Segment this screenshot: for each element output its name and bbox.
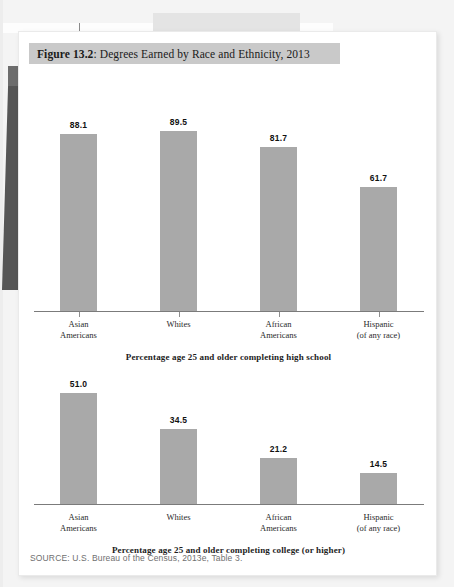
chart-high-school: 88.1 89.5 81.7 61.7 Asian — [19, 80, 438, 362]
bar-value-label: 21.2 — [270, 444, 287, 454]
source-note: SOURCE: U.S. Bureau of the Census, 2013e… — [30, 553, 242, 563]
x-axis-label-line1: Hispanic — [324, 512, 434, 523]
x-axis-label-line1: Hispanic — [324, 319, 434, 330]
x-axis-label-line1: African — [224, 319, 334, 330]
x-axis-label-line2: Americans — [224, 330, 334, 341]
x-axis-label-line1: Asian — [24, 319, 134, 330]
bar-rect[interactable] — [260, 147, 297, 312]
x-axis-label-line1: Asian — [24, 512, 134, 523]
x-axis-label: African Americans — [224, 512, 334, 533]
bar-column[interactable]: 61.7 — [334, 80, 424, 312]
bar-value-label: 81.7 — [270, 133, 287, 143]
figure-number: Figure 13.2 — [37, 48, 93, 60]
x-axis-label-line1: Whites — [124, 319, 234, 330]
x-axis-label: African Americans — [224, 319, 334, 340]
page-left-edge — [0, 0, 3, 587]
bar-value-label: 14.5 — [370, 459, 387, 469]
x-axis-labels: Asian Americans Whites African Americans… — [34, 505, 424, 535]
x-axis-label: Whites — [124, 512, 234, 523]
bar-value-label: 88.1 — [70, 120, 87, 130]
figure-title-text: : Degrees Earned by Race and Ethnicity, … — [93, 48, 309, 60]
bar-column[interactable]: 81.7 — [234, 80, 324, 312]
x-axis-label-line2: Americans — [224, 523, 334, 534]
x-axis-label-line1: Whites — [124, 512, 234, 523]
x-axis-label-line2: (of any race) — [324, 523, 434, 534]
bar-value-label: 51.0 — [70, 379, 87, 389]
x-axis-label-line2: (of any race) — [324, 330, 434, 341]
plot-area-college: 51.0 34.5 21.2 14.5 — [34, 353, 424, 505]
x-axis-label-line1: African — [224, 512, 334, 523]
chart-college: 51.0 34.5 21.2 14.5 Asian Americans — [19, 353, 438, 555]
x-axis-label: Asian Americans — [24, 319, 134, 340]
bar-rect[interactable] — [360, 187, 397, 312]
figure-title: Figure 13.2: Degrees Earned by Race and … — [29, 43, 340, 64]
bar-rect[interactable] — [60, 393, 97, 505]
plot-area-high-school: 88.1 89.5 81.7 61.7 — [34, 80, 424, 312]
x-axis-labels: Asian Americans Whites African Americans… — [34, 312, 424, 342]
x-axis-label: Whites — [124, 319, 234, 330]
bar-column[interactable]: 21.2 — [234, 353, 324, 505]
x-axis-label: Hispanic (of any race) — [324, 319, 434, 340]
bar-column[interactable]: 88.1 — [34, 80, 124, 312]
bar-value-label: 34.5 — [170, 415, 187, 425]
bar-column[interactable]: 89.5 — [134, 80, 224, 312]
figure-card: Figure 13.2: Degrees Earned by Race and … — [18, 31, 437, 576]
bar-column[interactable]: 14.5 — [334, 353, 424, 505]
x-axis-label: Asian Americans — [24, 512, 134, 533]
bar-rect[interactable] — [360, 473, 397, 505]
bar-column[interactable]: 34.5 — [134, 353, 224, 505]
bar-rect[interactable] — [60, 134, 97, 312]
x-axis-label-line2: Americans — [24, 330, 134, 341]
bar-rect[interactable] — [160, 131, 197, 312]
x-axis-label-line2: Americans — [24, 523, 134, 534]
x-axis-label: Hispanic (of any race) — [324, 512, 434, 533]
bar-column[interactable]: 51.0 — [34, 353, 124, 505]
bar-value-label: 89.5 — [170, 117, 187, 127]
bar-rect[interactable] — [160, 429, 197, 505]
bar-rect[interactable] — [260, 458, 297, 505]
bar-value-label: 61.7 — [370, 173, 387, 183]
